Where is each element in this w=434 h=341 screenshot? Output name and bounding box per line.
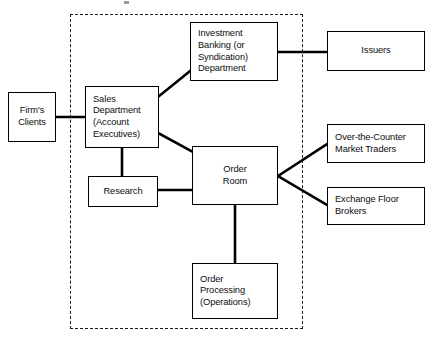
node-firms-clients[interactable]: Firm's Clients	[8, 92, 56, 142]
node-firms-clients-label: Firm's Clients	[18, 105, 46, 128]
node-order-processing[interactable]: Order Processing (Operations)	[192, 263, 278, 319]
connector-sales-to-order-room	[158, 133, 193, 152]
node-research-label: Research	[104, 186, 143, 198]
node-investment-banking-label: Investment Banking (or Syndication) Depa…	[191, 28, 248, 74]
node-issuers-label: Issuers	[361, 45, 390, 57]
node-over-the-counter-market-traders-label: Over-the-Counter Market Traders	[328, 132, 406, 155]
connector-order-room-to-exchange-brokers	[278, 176, 327, 205]
node-investment-banking[interactable]: Investment Banking (or Syndication) Depa…	[190, 22, 278, 81]
connector-sales-to-investment-banking	[158, 71, 190, 97]
node-exchange-floor-brokers[interactable]: Exchange Floor Brokers	[327, 187, 425, 225]
diagram-canvas: Firm's Clients Sales Department (Account…	[0, 0, 434, 341]
connector-order-room-to-otc-traders	[278, 144, 327, 176]
node-exchange-floor-brokers-label: Exchange Floor Brokers	[328, 194, 399, 217]
node-order-processing-label: Order Processing (Operations)	[193, 274, 250, 309]
node-sales-department[interactable]: Sales Department (Account Executives)	[85, 86, 159, 148]
node-research[interactable]: Research	[88, 176, 158, 207]
node-order-room-label: Order Room	[223, 164, 247, 187]
node-issuers[interactable]: Issuers	[327, 31, 425, 71]
node-over-the-counter-market-traders[interactable]: Over-the-Counter Market Traders	[327, 124, 425, 163]
node-sales-department-label: Sales Department (Account Executives)	[86, 94, 141, 140]
node-order-room[interactable]: Order Room	[192, 146, 278, 205]
